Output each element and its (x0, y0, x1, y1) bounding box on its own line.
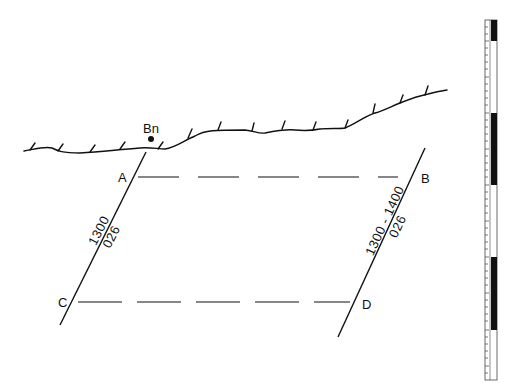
point-label-d: D (362, 297, 371, 312)
scale-bar (485, 20, 497, 380)
geologic-diagram: Bn A B C D 1300 026 1300 - 1400 026 (0, 0, 518, 383)
benchmark-point (148, 136, 154, 142)
benchmark-label: Bn (143, 121, 159, 136)
ground-surface (24, 86, 447, 153)
point-label-c: C (58, 295, 67, 310)
point-label-a: A (118, 170, 127, 185)
point-label-b: B (421, 171, 430, 186)
